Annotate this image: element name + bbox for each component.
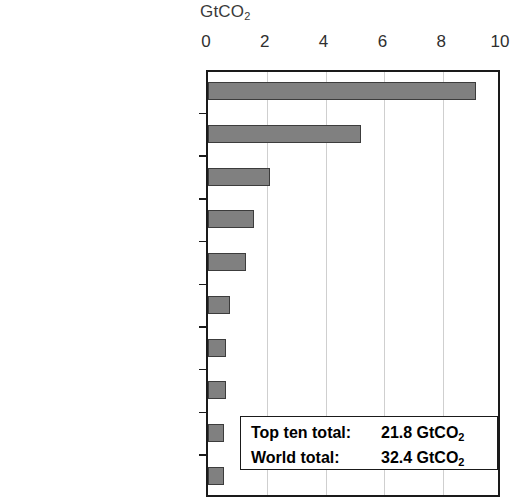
bar-korea	[208, 339, 226, 357]
x-tick-8: 8	[436, 32, 445, 52]
world-total-value: 32.4 GtCO2	[381, 446, 464, 471]
x-tick-0: 0	[201, 32, 210, 52]
y-tick-9	[199, 454, 206, 456]
bar-russian-federation	[208, 210, 254, 228]
x-tick-2: 2	[260, 32, 269, 52]
y-tick-2	[199, 155, 206, 157]
y-tick-6	[199, 326, 206, 328]
x-axis-title: GtCO2	[200, 2, 251, 22]
top-ten-total-value: 21.8 GtCO2	[381, 421, 464, 446]
x-tick-4: 4	[319, 32, 328, 52]
x-tick-6: 6	[378, 32, 387, 52]
x-axis-unit-subscript: 2	[244, 10, 250, 22]
y-tick-7	[199, 369, 206, 371]
bar-japan	[208, 253, 246, 271]
y-tick-4	[199, 241, 206, 243]
bar-germany	[208, 296, 230, 314]
bar-china	[208, 82, 476, 100]
y-tick-8	[199, 412, 206, 414]
bar-islamic-republic-of-iran	[208, 381, 226, 399]
top-ten-total-row: Top ten total: 21.8 GtCO2	[251, 421, 489, 446]
y-tick-3	[199, 198, 206, 200]
world-total-label: World total:	[251, 446, 381, 469]
y-tick-1	[199, 113, 206, 115]
world-total-row: World total: 32.4 GtCO2	[251, 446, 489, 471]
top-ten-total-value-subscript: 2	[458, 431, 464, 443]
world-total-value-main: 32.4 GtCO	[381, 449, 458, 466]
bar-saudi-arabia	[208, 467, 224, 485]
totals-annotation-box: Top ten total: 21.8 GtCO2 World total: 3…	[240, 416, 498, 470]
x-axis-unit-main: GtCO	[200, 2, 244, 21]
world-total-value-subscript: 2	[458, 456, 464, 468]
y-tick-5	[199, 284, 206, 286]
bar-india	[208, 168, 270, 186]
bar-united-states	[208, 125, 361, 143]
top-ten-total-label: Top ten total:	[251, 421, 381, 444]
x-tick-10: 10	[491, 32, 510, 52]
emissions-bar-chart: GtCO2 0246810 ChinaUnited StatesIndiaRus…	[0, 0, 516, 503]
bar-canada	[208, 424, 224, 442]
top-ten-total-value-main: 21.8 GtCO	[381, 424, 458, 441]
